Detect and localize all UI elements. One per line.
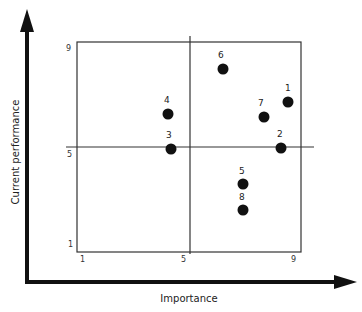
y-axis-arrow-icon	[20, 9, 34, 32]
point-8-label: 8	[239, 192, 245, 202]
y-axis-title: Current performance	[10, 100, 21, 205]
point-2-label: 2	[277, 129, 283, 139]
point-3	[166, 144, 177, 155]
importance-performance-matrix: 9 5 1 1 5 9 1 2 3 4 5 6 7 8 Importance C…	[0, 0, 362, 312]
x-tick-1: 1	[80, 255, 85, 264]
data-points: 1 2 3 4 5 6 7 8	[163, 50, 294, 216]
x-axis-title: Importance	[160, 293, 217, 304]
point-5	[238, 179, 249, 190]
x-tick-5: 5	[181, 255, 186, 264]
y-tick-9: 9	[66, 44, 71, 53]
x-axis-arrow-icon	[334, 275, 357, 289]
point-2	[276, 143, 287, 154]
x-tick-9: 9	[291, 255, 296, 264]
point-4-label: 4	[164, 95, 170, 105]
point-7-label: 7	[258, 98, 264, 108]
y-tick-1: 1	[68, 240, 73, 249]
point-7	[259, 112, 270, 123]
point-5-label: 5	[239, 166, 245, 176]
point-6	[218, 64, 229, 75]
point-4	[163, 109, 174, 120]
point-8	[238, 205, 249, 216]
point-1-label: 1	[285, 83, 291, 93]
point-6-label: 6	[218, 50, 224, 60]
point-3-label: 3	[166, 130, 172, 140]
point-1	[283, 97, 294, 108]
y-tick-5: 5	[67, 150, 72, 159]
